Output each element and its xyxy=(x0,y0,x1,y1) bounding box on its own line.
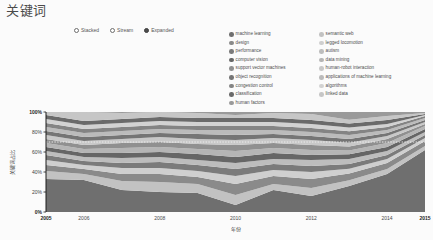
legend-label: applications of machine learning xyxy=(326,73,392,82)
y-tick-label: 80% xyxy=(32,129,43,135)
legend-item[interactable]: support vector machines xyxy=(229,64,317,73)
legend-item[interactable]: autism xyxy=(319,47,421,56)
x-tick-label: 2005 xyxy=(40,215,51,221)
legend-item[interactable]: applications of machine learning xyxy=(319,73,421,82)
legend-swatch-icon xyxy=(229,58,234,63)
x-tick-label: 2014 xyxy=(382,215,393,221)
radio-dot-icon xyxy=(110,28,115,33)
legend-label: performance xyxy=(236,47,262,56)
legend-swatch-icon xyxy=(319,84,324,89)
x-tick-label: 2008 xyxy=(154,215,165,221)
legend-label: linked data xyxy=(326,90,348,99)
legend-item[interactable]: algorithms xyxy=(319,82,421,91)
page-title: 关键词 xyxy=(6,3,47,18)
legend-label: support vector machines xyxy=(236,64,286,73)
keyword-trend-panel: 关键词 StackedStreamExpanded machine learni… xyxy=(0,0,433,240)
x-tick-label: 2010 xyxy=(230,215,241,221)
radio-dot-icon xyxy=(74,28,79,33)
legend-swatch-icon xyxy=(319,66,324,71)
y-tick-label: 40% xyxy=(32,169,43,175)
legend-label: object recognition xyxy=(236,73,272,82)
legend-swatch-icon xyxy=(229,75,234,80)
legend-item[interactable]: congestion control xyxy=(229,82,317,91)
x-tick-label: 2015 xyxy=(419,215,430,221)
legend-swatch-icon xyxy=(319,32,324,37)
x-tick-label: 2012 xyxy=(306,215,317,221)
legend-label: human-robot interaction xyxy=(326,64,375,73)
radio-label: Stacked xyxy=(81,27,99,33)
legend-item[interactable]: computer vision xyxy=(229,56,317,65)
legend-label: legged locomotion xyxy=(326,39,363,48)
legend-label: semantic web xyxy=(326,30,354,39)
legend-swatch-icon xyxy=(229,32,234,37)
legend-label: computer vision xyxy=(236,56,268,65)
radio-label: Stream xyxy=(117,27,133,33)
radio-stacked[interactable]: Stacked xyxy=(74,27,99,33)
legend-item[interactable]: data mining xyxy=(319,56,421,65)
legend-item[interactable]: performance xyxy=(229,47,317,56)
series-legend[interactable]: machine learningsemantic webdesignlegged… xyxy=(229,30,429,107)
legend-item[interactable]: legged locomotion xyxy=(319,39,421,48)
legend-item[interactable]: object recognition xyxy=(229,73,317,82)
y-axis-title: 关键词占比 xyxy=(9,150,16,175)
legend-label: data mining xyxy=(326,56,350,65)
legend-swatch-icon xyxy=(319,75,324,80)
legend-swatch-icon xyxy=(319,49,324,54)
x-axis-title: 年份 xyxy=(231,226,241,233)
y-tick-label: 0% xyxy=(35,209,43,215)
legend-label: congestion control xyxy=(236,82,273,91)
radio-label: Expanded xyxy=(151,27,174,33)
y-tick-label: 20% xyxy=(32,189,43,195)
legend-item[interactable]: human-robot interaction xyxy=(319,64,421,73)
legend-swatch-icon xyxy=(319,41,324,46)
legend-swatch-icon xyxy=(319,58,324,63)
x-tick-label: 2006 xyxy=(78,215,89,221)
legend-label: machine learning xyxy=(236,30,271,39)
legend-label: algorithms xyxy=(326,82,347,91)
y-tick-label: 100% xyxy=(29,109,42,115)
radio-dot-icon xyxy=(144,28,149,33)
stacked-area-chart: 0%20%40%60%80%100%2005200620082010201220… xyxy=(0,104,433,240)
legend-item[interactable]: machine learning xyxy=(229,30,317,39)
y-tick-label: 60% xyxy=(32,149,43,155)
legend-label: design xyxy=(236,39,250,48)
legend-swatch-icon xyxy=(229,41,234,46)
legend-swatch-icon xyxy=(319,92,324,97)
legend-item[interactable]: design xyxy=(229,39,317,48)
legend-label: autism xyxy=(326,47,340,56)
layout-mode-radio-group[interactable]: StackedStreamExpanded xyxy=(74,27,174,33)
chart-canvas: 0%20%40%60%80%100%2005200620082010201220… xyxy=(0,104,433,240)
legend-item[interactable]: linked data xyxy=(319,90,421,99)
legend-swatch-icon xyxy=(229,92,234,97)
radio-expanded[interactable]: Expanded xyxy=(144,27,174,33)
legend-item[interactable]: classification xyxy=(229,90,317,99)
legend-swatch-icon xyxy=(229,66,234,71)
legend-swatch-icon xyxy=(229,49,234,54)
legend-label: classification xyxy=(236,90,262,99)
legend-swatch-icon xyxy=(229,84,234,89)
radio-stream[interactable]: Stream xyxy=(110,27,133,33)
legend-item[interactable]: semantic web xyxy=(319,30,421,39)
